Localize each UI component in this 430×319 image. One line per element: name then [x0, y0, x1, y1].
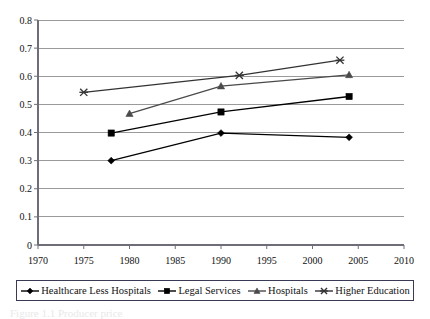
legend-label: Legal Services: [178, 285, 240, 296]
legend-swatch-square: [157, 286, 177, 296]
data-point-marker: [320, 287, 328, 293]
y-axis-tick-label: 0.3: [20, 155, 33, 166]
x-axis-tick-label: 2010: [394, 255, 414, 266]
y-axis-tick-label: 0.1: [20, 211, 33, 222]
x-axis-tick-label: 1985: [165, 255, 185, 266]
data-point-marker: [79, 89, 88, 96]
data-point-marker: [165, 288, 170, 293]
figure-caption: Figure 1.1 Producer price: [10, 307, 420, 319]
square-marker-icon: [218, 109, 224, 115]
y-axis-tick-label: 0: [27, 240, 32, 251]
y-axis-tick-label: 0.8: [20, 15, 33, 26]
chart-container: 00.10.20.30.40.50.60.70.8197019751980198…: [0, 0, 430, 319]
x-axis-tick-label: 1990: [211, 255, 231, 266]
square-marker-icon: [165, 288, 170, 293]
x-axis-tick-label: 2000: [303, 255, 323, 266]
data-point-marker: [346, 134, 353, 141]
x-axis-tick-label: 1975: [74, 255, 94, 266]
data-point-marker: [235, 72, 244, 79]
legend-label: Higher Education: [335, 285, 409, 296]
data-point-marker: [27, 288, 33, 294]
diamond-marker-icon: [108, 157, 115, 164]
chart-legend: Healthcare Less HospitalsLegal ServicesH…: [16, 280, 414, 301]
legend-item-2[interactable]: Hospitals: [247, 285, 308, 296]
data-point-marker: [218, 130, 225, 137]
data-point-marker: [336, 57, 345, 64]
y-axis-tick-label: 0.6: [20, 71, 33, 82]
diamond-marker-icon: [346, 134, 353, 141]
square-marker-icon: [108, 130, 114, 136]
legend-item-0[interactable]: Healthcare Less Hospitals: [20, 285, 151, 296]
legend-item-1[interactable]: Legal Services: [157, 285, 240, 296]
series-line-1: [111, 97, 349, 134]
data-point-marker: [218, 109, 224, 115]
x-axis-tick-label: 1970: [28, 255, 48, 266]
series-line-2: [130, 75, 350, 114]
legend-label: Healthcare Less Hospitals: [41, 285, 151, 296]
x-axis-tick-label: 1980: [120, 255, 140, 266]
diamond-marker-icon: [218, 130, 225, 137]
legend-swatch-star: [314, 286, 334, 296]
x-axis-tick-label: 2005: [348, 255, 368, 266]
legend-label: Hospitals: [268, 285, 308, 296]
y-axis-tick-label: 0.2: [20, 183, 33, 194]
x-axis-tick-label: 1995: [257, 255, 277, 266]
legend-item-3[interactable]: Higher Education: [314, 285, 409, 296]
data-point-marker: [346, 93, 352, 99]
y-axis-tick-label: 0.4: [20, 127, 33, 138]
series-line-0: [111, 133, 349, 161]
data-point-marker: [108, 157, 115, 164]
line-chart-plot: 00.10.20.30.40.50.60.70.8197019751980198…: [0, 0, 430, 280]
legend-swatch-triangle: [247, 286, 267, 296]
square-marker-icon: [346, 93, 352, 99]
y-axis-tick-label: 0.7: [20, 43, 33, 54]
diamond-marker-icon: [27, 288, 33, 294]
legend-swatch-diamond: [20, 286, 40, 296]
y-axis-tick-label: 0.5: [20, 99, 33, 110]
data-point-marker: [108, 130, 114, 136]
